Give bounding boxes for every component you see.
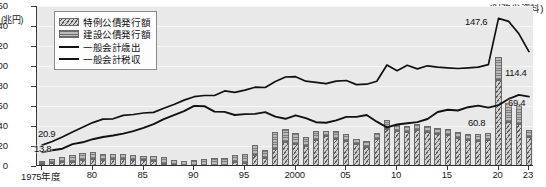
hatch-swatch-icon (59, 18, 79, 26)
y-axis-tick-label: 140 (0, 21, 8, 31)
solid-swatch-icon (59, 30, 79, 38)
line-series-zeishu (42, 95, 529, 152)
y-axis-tick-label: 120 (0, 41, 8, 51)
value-callout-zeishu-end: 69.4 (508, 97, 525, 108)
x-axis-tick-label: 15 (442, 169, 452, 180)
y-axis-tick-mark (31, 166, 36, 167)
axis-baseline (37, 165, 533, 166)
y-axis-tick-label: 0 (0, 161, 8, 171)
line-swatch-icon (59, 43, 79, 51)
x-axis-tick-mark (193, 166, 194, 170)
x-axis-tick-mark (244, 166, 245, 170)
y-axis-tick-label: 100 (0, 61, 8, 71)
y-axis-tick-label: 160 (0, 1, 8, 11)
value-callout-saishutsu-start: 20.9 (38, 128, 55, 139)
chart-legend: 特例公債発行額 建設公債発行額 一般会計歳出 一般会計税収 (54, 11, 157, 70)
x-axis-tick-label: 85 (137, 169, 147, 180)
x-axis-tick-mark (41, 166, 42, 170)
x-axis-tick-label: 23 (523, 169, 533, 180)
x-axis-tick-mark (92, 166, 93, 170)
x-axis-tick-mark (345, 166, 346, 170)
legend-item-kensetsu: 建設公債発行額 (59, 28, 150, 40)
x-axis-tick-label: 10 (391, 169, 401, 180)
x-axis-tick-label: 20 (492, 169, 502, 180)
x-axis-tick-label: 80 (87, 169, 97, 180)
y-axis-tick-label: 80 (0, 81, 8, 91)
chart-root: (兆円) (財務省資料) 020406080100120140160 1975年… (0, 0, 546, 187)
x-axis-tick-label: 90 (188, 169, 198, 180)
x-axis-tick-mark (295, 166, 296, 170)
legend-label-zeishu: 一般会計税収 (83, 52, 141, 66)
x-axis-tick-mark (498, 166, 499, 170)
legend-item-zeishu: 一般会計税収 (59, 53, 150, 65)
x-axis-tick-label: 95 (239, 169, 249, 180)
x-axis-tick-mark (528, 166, 529, 170)
x-axis-tick-label: 05 (340, 169, 350, 180)
y-axis-tick-label: 20 (0, 141, 8, 151)
x-axis-tick-mark (143, 166, 144, 170)
legend-item-saishutsu: 一般会計歳出 (59, 41, 150, 53)
line-swatch-icon (59, 55, 79, 63)
value-callout-saishutsu-end: 114.4 (505, 67, 527, 78)
x-axis-tick-mark (447, 166, 448, 170)
legend-item-toku: 特例公債発行額 (59, 16, 150, 28)
x-axis-tick-mark (396, 166, 397, 170)
value-callout-zeishu-mid: 60.8 (468, 117, 485, 128)
x-axis-tick-label: 2000 (284, 169, 304, 180)
value-callout-zeishu-start: 13.8 (34, 143, 51, 154)
y-axis-tick-label: 60 (0, 101, 8, 111)
value-callout-saishutsu-peak: 147.6 (465, 16, 487, 27)
x-axis-tick-label: 1975年度 (21, 169, 61, 183)
y-axis-tick-label: 40 (0, 121, 8, 131)
